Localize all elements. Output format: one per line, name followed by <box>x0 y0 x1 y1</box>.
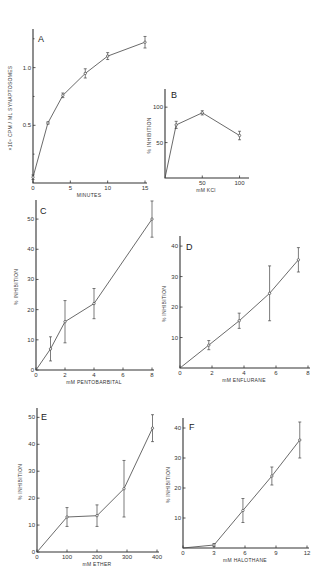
panel-label: E <box>41 412 47 422</box>
y-tick-label: 30 <box>28 468 35 474</box>
x-tick-label: 2 <box>63 372 67 378</box>
y-tick-label: 50 <box>28 414 35 420</box>
x-tick-label: 9 <box>274 550 278 556</box>
data-point <box>175 124 177 126</box>
x-tick-label: 300 <box>122 554 133 560</box>
y-tick-label: 20 <box>27 307 34 313</box>
data-point <box>297 259 299 261</box>
y-tick-label: 10 <box>171 335 178 341</box>
chart-panel-b: 5010050100mM KCl% INHIBITIONB <box>146 89 249 193</box>
y-tick-label: 10 <box>28 522 35 528</box>
data-point <box>271 475 273 477</box>
y-tick-label: 30 <box>27 276 34 282</box>
data-point <box>213 544 215 546</box>
y-axis-label: % INHIBITION <box>161 286 167 322</box>
axes <box>36 200 154 370</box>
chart-panel-d: 0246810203040mM ENFLURANE% INHIBITIOND <box>161 236 310 383</box>
data-line <box>183 440 300 548</box>
chart-panel-a: 0510150.51.0MINUTES×10⁶ CPM / ML SYNAPTO… <box>7 29 149 198</box>
data-point <box>64 321 66 323</box>
data-point <box>208 344 210 346</box>
y-tick-label: 10 <box>27 337 34 343</box>
x-tick-label: 50 <box>199 180 206 186</box>
chart-panel-f: 03691210203040mM HALOTHANE% INHIBITIONF <box>165 418 311 563</box>
axes <box>180 236 310 368</box>
x-tick-label: 200 <box>92 554 103 560</box>
panel-label: C <box>40 206 47 216</box>
x-tick-label: 100 <box>235 180 246 186</box>
x-tick-label: 0 <box>34 372 38 378</box>
data-point <box>238 320 240 322</box>
y-axis-label: % INHIBITION <box>165 467 171 503</box>
data-point <box>151 427 153 429</box>
data-point <box>238 134 240 136</box>
x-tick-label: 8 <box>150 372 154 378</box>
y-tick-label: 20 <box>28 495 35 501</box>
y-axis-label: % INHIBITION <box>13 269 19 305</box>
x-tick-label: 2 <box>210 370 214 376</box>
axes <box>33 29 147 183</box>
axes <box>183 418 309 548</box>
y-axis-label: ×10⁶ CPM / ML SYNAPTOSOMES <box>7 65 13 150</box>
data-point <box>151 218 153 220</box>
y-tick-label: 1.0 <box>23 65 32 71</box>
y-tick-label: 30 <box>174 455 181 461</box>
y-tick-label: 40 <box>171 243 178 249</box>
chart-panel-e: 010020030040001020304050mM ETHER% INHIBI… <box>17 408 163 567</box>
y-tick-label: 40 <box>174 425 181 431</box>
x-tick-label: 100 <box>62 554 73 560</box>
x-tick-label: 10 <box>104 185 111 191</box>
data-point <box>49 348 51 350</box>
chart-panel-c: 0246801020304050mM PENTOBARBITAL% INHIBI… <box>13 200 154 385</box>
x-tick-label: 8 <box>306 370 310 376</box>
y-tick-label: 20 <box>171 304 178 310</box>
x-tick-label: 6 <box>274 370 278 376</box>
y-tick-label: 10 <box>174 515 181 521</box>
x-tick-label: 6 <box>243 550 247 556</box>
data-line <box>37 428 153 552</box>
data-point <box>268 292 270 294</box>
panel-label: F <box>189 422 195 432</box>
data-point <box>66 516 68 518</box>
y-tick-label: 30 <box>171 274 178 280</box>
x-tick-label: 3 <box>212 550 216 556</box>
x-tick-label: 0 <box>178 370 182 376</box>
x-tick-label: 4 <box>242 370 246 376</box>
y-tick-label: 50 <box>27 216 34 222</box>
y-tick-label: 20 <box>174 485 181 491</box>
x-tick-label: 0 <box>181 550 185 556</box>
x-tick-label: 12 <box>304 550 311 556</box>
data-point <box>144 41 146 43</box>
y-tick-label: 50 <box>156 140 163 146</box>
panel-label: A <box>38 34 44 44</box>
panel-label: B <box>171 90 177 100</box>
x-tick-label: 0 <box>31 185 35 191</box>
figure-canvas: 0510150.51.0MINUTES×10⁶ CPM / ML SYNAPTO… <box>0 0 324 578</box>
panel-label: D <box>186 242 193 252</box>
data-point <box>106 55 108 57</box>
data-point <box>96 514 98 516</box>
x-axis-label: mM PENTOBARBITAL <box>66 379 121 385</box>
y-tick-label: 0.5 <box>23 122 32 128</box>
x-tick-label: 15 <box>142 185 149 191</box>
x-axis-label: mM HALOTHANE <box>223 557 267 563</box>
data-point <box>93 302 95 304</box>
x-tick-label: 0 <box>35 554 39 560</box>
x-axis-label: mM ETHER <box>82 561 111 567</box>
x-tick-label: 4 <box>92 372 96 378</box>
data-point <box>201 112 203 114</box>
data-point <box>242 509 244 511</box>
data-point <box>62 94 64 96</box>
y-axis-label: % INHIBITION <box>146 117 152 153</box>
data-point <box>32 176 34 178</box>
x-axis-label: MINUTES <box>77 192 102 198</box>
x-axis-label: mM ENFLURANE <box>222 377 266 383</box>
x-tick-label: 400 <box>152 554 163 560</box>
data-point <box>47 122 49 124</box>
y-tick-label: 100 <box>153 104 164 110</box>
x-tick-label: 6 <box>121 372 125 378</box>
y-tick-label: 40 <box>27 246 34 252</box>
x-axis-label: mM KCl <box>196 187 216 193</box>
data-line <box>33 42 145 177</box>
data-point <box>84 72 86 74</box>
